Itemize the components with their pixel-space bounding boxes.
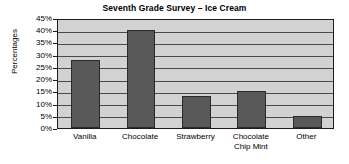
gridline xyxy=(58,32,333,33)
y-axis-tick-label: 45% xyxy=(16,15,52,23)
bar xyxy=(71,60,100,128)
y-axis-tick-label: 0% xyxy=(16,125,52,133)
y-axis-tick-label: 35% xyxy=(16,39,52,47)
plot-area xyxy=(57,19,334,129)
x-axis-tick-label: Strawberry xyxy=(168,132,223,142)
x-axis-tick-label: Other xyxy=(279,132,334,142)
bar xyxy=(293,116,322,128)
bar xyxy=(182,96,211,128)
y-axis-tick-label: 5% xyxy=(16,113,52,121)
bar xyxy=(237,91,266,128)
y-axis-tick-label: 30% xyxy=(16,52,52,60)
y-axis-tick-label: 10% xyxy=(16,101,52,109)
x-axis-tick-label: Chocolate xyxy=(112,132,167,142)
y-axis-tick-label: 25% xyxy=(16,64,52,72)
bar-chart-figure: Seventh Grade Survey – Ice Cream Percent… xyxy=(0,0,349,164)
bar xyxy=(127,30,156,128)
gridline xyxy=(58,56,333,57)
y-axis-tick-label: 20% xyxy=(16,76,52,84)
gridline xyxy=(58,44,333,45)
y-axis-tick-mark xyxy=(53,129,57,130)
chart-title: Seventh Grade Survey – Ice Cream xyxy=(0,3,349,13)
x-axis-tick-label: Chocolate Chip Mint xyxy=(223,132,278,152)
y-axis-tick-label: 15% xyxy=(16,88,52,96)
x-axis-tick-label: Vanilla xyxy=(57,132,112,142)
y-axis-tick-label: 40% xyxy=(16,27,52,35)
